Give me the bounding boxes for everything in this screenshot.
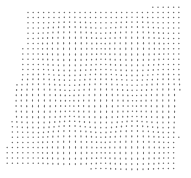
dot bbox=[38, 12, 40, 14]
dot bbox=[146, 94, 147, 96]
dot bbox=[131, 79, 132, 81]
dot bbox=[17, 152, 19, 154]
dot bbox=[100, 12, 102, 14]
dot bbox=[11, 121, 12, 123]
dot bbox=[27, 152, 29, 154]
dot bbox=[121, 17, 122, 19]
dot bbox=[15, 100, 16, 102]
dot bbox=[173, 27, 175, 29]
dot bbox=[91, 42, 92, 44]
dot bbox=[95, 32, 96, 34]
dot bbox=[38, 38, 39, 40]
dot bbox=[44, 94, 45, 96]
dot bbox=[22, 162, 24, 164]
dot bbox=[12, 126, 14, 128]
dot bbox=[147, 17, 149, 19]
dot bbox=[151, 121, 152, 123]
dot bbox=[38, 64, 40, 66]
dot bbox=[27, 38, 29, 40]
dot bbox=[137, 135, 138, 137]
dot bbox=[112, 116, 113, 118]
dot bbox=[6, 162, 8, 164]
dot bbox=[90, 74, 91, 76]
dot bbox=[53, 12, 55, 14]
dot bbox=[114, 146, 115, 148]
dot bbox=[49, 94, 50, 96]
dot bbox=[6, 152, 8, 154]
dot bbox=[146, 116, 147, 118]
dot bbox=[65, 110, 66, 112]
dot bbox=[75, 141, 76, 144]
dot bbox=[114, 152, 115, 154]
dot bbox=[43, 83, 44, 85]
dot bbox=[120, 48, 121, 50]
dot bbox=[173, 12, 175, 14]
dot bbox=[132, 105, 133, 107]
dot bbox=[16, 89, 17, 91]
dot bbox=[122, 116, 123, 118]
dot bbox=[125, 59, 126, 61]
dot bbox=[109, 59, 110, 61]
dot bbox=[178, 69, 180, 71]
dot bbox=[120, 42, 121, 44]
dot bbox=[91, 146, 92, 148]
dot bbox=[126, 21, 127, 23]
dot bbox=[86, 37, 87, 39]
dot bbox=[141, 121, 142, 123]
dot bbox=[47, 42, 48, 44]
dot bbox=[100, 99, 101, 102]
dot bbox=[85, 27, 86, 29]
dot bbox=[178, 27, 180, 29]
dot bbox=[38, 127, 39, 129]
dot bbox=[125, 157, 126, 159]
dot bbox=[151, 84, 152, 86]
dot bbox=[153, 168, 154, 170]
dot bbox=[162, 116, 163, 118]
dot bbox=[173, 69, 175, 71]
dot bbox=[168, 12, 170, 14]
dot bbox=[100, 168, 102, 170]
dot bbox=[26, 94, 27, 96]
dot bbox=[58, 125, 59, 127]
dot bbox=[159, 147, 160, 149]
dot bbox=[116, 74, 117, 76]
dot bbox=[126, 74, 127, 76]
dot bbox=[121, 126, 122, 128]
dot bbox=[173, 142, 175, 144]
dot bbox=[173, 58, 175, 60]
dot bbox=[126, 12, 128, 14]
dot bbox=[27, 147, 29, 149]
dot bbox=[89, 89, 90, 91]
dot bbox=[57, 157, 58, 159]
dot bbox=[65, 105, 66, 107]
dot bbox=[83, 100, 84, 102]
dot bbox=[162, 111, 163, 114]
dot bbox=[146, 121, 147, 123]
dot bbox=[64, 79, 65, 81]
dot bbox=[106, 78, 107, 80]
dot bbox=[156, 105, 157, 108]
dot bbox=[178, 12, 180, 14]
dot bbox=[32, 116, 33, 118]
dot bbox=[21, 116, 22, 118]
dot bbox=[154, 48, 155, 50]
dot bbox=[75, 146, 76, 149]
dot bbox=[63, 26, 64, 28]
dot bbox=[96, 37, 97, 39]
dot bbox=[162, 69, 164, 71]
dot bbox=[52, 64, 53, 66]
dot bbox=[69, 16, 70, 18]
dot bbox=[38, 78, 39, 80]
dot bbox=[173, 38, 175, 40]
dot bbox=[106, 94, 107, 96]
dot bbox=[80, 21, 81, 23]
dot bbox=[79, 12, 81, 14]
dot bbox=[148, 69, 149, 71]
dot bbox=[86, 146, 87, 148]
dot bbox=[100, 94, 101, 97]
dot bbox=[114, 48, 115, 50]
dot bbox=[143, 141, 144, 143]
dot bbox=[73, 110, 74, 112]
dot bbox=[38, 74, 39, 76]
dot bbox=[168, 53, 170, 55]
